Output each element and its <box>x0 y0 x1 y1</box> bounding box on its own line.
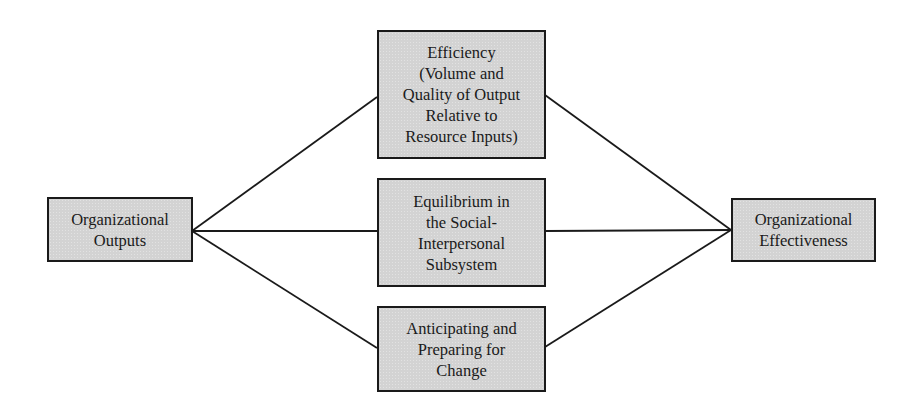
node-label-line: Subsystem <box>426 254 498 275</box>
node-anticipating-change: Anticipating and Preparing for Change <box>377 306 546 392</box>
edge-outputs-change <box>192 231 377 348</box>
node-label-line: Organizational <box>71 209 169 230</box>
node-label-line: Quality of Output <box>403 84 520 105</box>
node-label-line: Change <box>436 360 486 381</box>
node-organizational-outputs: Organizational Outputs <box>47 197 193 262</box>
edge-change-effectiveness <box>545 230 731 347</box>
node-label-line: Anticipating and <box>406 318 516 339</box>
node-label-line: (Volume and <box>419 63 503 84</box>
node-organizational-effectiveness: Organizational Effectiveness <box>731 198 876 262</box>
node-efficiency: Efficiency (Volume and Quality of Output… <box>377 30 546 159</box>
edge-outputs-efficiency <box>192 97 377 231</box>
node-label-line: Preparing for <box>418 339 506 360</box>
edge-equilibrium-effectiveness <box>545 230 731 231</box>
node-label-line: Organizational <box>755 209 853 230</box>
node-label-line: Effectiveness <box>759 230 848 251</box>
node-label-line: Equilibrium in <box>413 191 510 212</box>
node-label-line: Resource Inputs) <box>405 126 517 147</box>
node-label-line: Outputs <box>94 230 146 251</box>
edge-efficiency-effectiveness <box>545 95 731 230</box>
node-label-line: the Social- <box>426 212 497 233</box>
node-label-line: Relative to <box>426 105 498 126</box>
node-label-line: Efficiency <box>427 42 495 63</box>
node-label-line: Interpersonal <box>418 233 505 254</box>
node-equilibrium: Equilibrium in the Social- Interpersonal… <box>377 178 546 287</box>
